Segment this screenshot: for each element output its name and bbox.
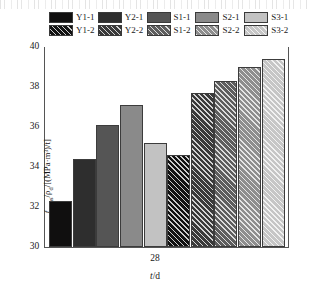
legend-swatch-s2-1 xyxy=(195,12,219,23)
legend-column: Y2-1Y2-2 xyxy=(98,11,147,37)
y-tick-label: 36 xyxy=(30,120,40,133)
legend-item-s2-2[interactable]: S2-2 xyxy=(195,24,244,36)
legend-item-y1-2[interactable]: Y1-2 xyxy=(49,24,98,36)
legend-swatch-s1-2 xyxy=(147,25,171,36)
bar-s3-2 xyxy=(262,59,285,247)
legend-item-y1-1[interactable]: Y1-1 xyxy=(49,11,98,23)
legend-swatch-s3-1 xyxy=(244,12,268,23)
bar-group xyxy=(45,47,288,247)
legend-swatch-s1-1 xyxy=(147,12,171,23)
legend-label-y2-1: Y2-1 xyxy=(125,12,144,23)
y-tick-label: 40 xyxy=(30,40,40,53)
legend-item-s1-1[interactable]: S1-1 xyxy=(147,11,196,23)
legend-label-s3-1: S3-1 xyxy=(271,12,288,23)
bar-y1-2 xyxy=(167,155,190,247)
bar-y2-2 xyxy=(191,93,214,247)
x-axis-title: t/d xyxy=(0,271,310,281)
legend-swatch-s3-2 xyxy=(244,25,268,36)
legend-item-s3-2[interactable]: S3-2 xyxy=(244,24,293,36)
legend-label-s1-2: S1-2 xyxy=(174,25,191,36)
x-axis-category-label: 28 xyxy=(0,253,310,263)
y-tick-label: 34 xyxy=(30,160,40,173)
legend-label-s2-2: S2-2 xyxy=(222,25,239,36)
legend-column: S3-1S3-2 xyxy=(244,11,293,37)
legend-swatch-s2-2 xyxy=(195,25,219,36)
legend-column: Y1-1Y1-2 xyxy=(49,11,98,37)
plot-area: 303234363840 fcu,as/ρd/[(MPa·m³)/t] xyxy=(45,47,288,247)
y-tick-label: 38 xyxy=(30,80,40,93)
legend-column: S1-1S1-2 xyxy=(147,11,196,37)
legend-label-y1-2: Y1-2 xyxy=(76,25,95,36)
bar-s1-1 xyxy=(96,125,119,247)
legend-label-s3-2: S3-2 xyxy=(271,25,288,36)
legend-item-y2-2[interactable]: Y2-2 xyxy=(98,24,147,36)
legend-item-s1-2[interactable]: S1-2 xyxy=(147,24,196,36)
scan-artifact-strip xyxy=(0,0,310,9)
x-axis-title-rest: /d xyxy=(153,271,160,281)
legend-column: S2-1S2-2 xyxy=(195,11,244,37)
legend-swatch-y2-1 xyxy=(98,12,122,23)
legend-item-s2-1[interactable]: S2-1 xyxy=(195,11,244,23)
legend-label-s2-1: S2-1 xyxy=(222,12,239,23)
bar-s2-1 xyxy=(120,105,143,247)
legend-item-s3-1[interactable]: S3-1 xyxy=(244,11,293,23)
legend-swatch-y1-2 xyxy=(49,25,73,36)
legend-label-y2-2: Y2-2 xyxy=(125,25,144,36)
legend-swatch-y2-2 xyxy=(98,25,122,36)
chart-legend: Y1-1Y1-2Y2-1Y2-2S1-1S1-2S2-1S2-2S3-1S3-2 xyxy=(49,11,293,37)
legend-label-y1-1: Y1-1 xyxy=(76,12,95,23)
legend-label-s1-1: S1-1 xyxy=(174,12,191,23)
y-tick-label: 32 xyxy=(30,200,40,213)
bar-s3-1 xyxy=(144,143,167,247)
y-tick-label: 30 xyxy=(30,240,40,253)
legend-item-y2-1[interactable]: Y2-1 xyxy=(98,11,147,23)
chart-figure: Y1-1Y1-2Y2-1Y2-2S1-1S1-2S2-1S2-2S3-1S3-2… xyxy=(0,0,310,299)
legend-swatch-y1-1 xyxy=(49,12,73,23)
bar-y2-1 xyxy=(73,159,96,247)
bar-y1-1 xyxy=(49,201,72,247)
bar-s1-2 xyxy=(214,81,237,247)
bar-s2-2 xyxy=(238,67,261,247)
